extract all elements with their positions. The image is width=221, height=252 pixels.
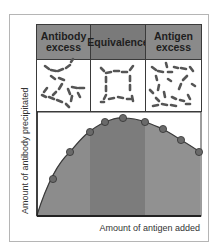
data-point <box>66 148 73 155</box>
data-point <box>49 175 56 182</box>
diagram-graphics <box>0 0 221 252</box>
data-point <box>101 118 108 125</box>
y-axis-label: Amount of antibody precipitated <box>20 87 30 214</box>
data-point <box>177 136 184 143</box>
data-point <box>141 118 148 125</box>
antigen-excess-lattice-icon <box>150 63 195 106</box>
data-point <box>119 114 126 121</box>
equivalence-lattice-icon <box>101 66 133 102</box>
data-point <box>86 128 93 135</box>
antibody-excess-lattice-icon <box>42 59 84 107</box>
x-axis-label: Amount of antigen added <box>99 223 200 233</box>
data-point <box>195 148 202 155</box>
data-point <box>159 125 166 132</box>
